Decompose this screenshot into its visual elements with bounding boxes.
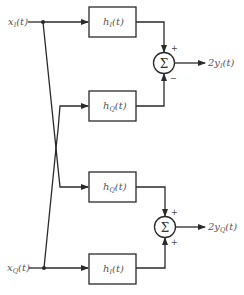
wire-hI-to-sum2 bbox=[136, 238, 165, 268]
sign-plus-2b: + bbox=[171, 238, 178, 247]
sigma-icon-2: Σ bbox=[161, 221, 169, 235]
sign-minus-1: − bbox=[170, 74, 177, 83]
complex-filter-block-diagram: xI(t) xQ(t) hI(t) hQ(t) hQ(t) hI(t) Σ + … bbox=[0, 0, 244, 295]
input-label-xI: xI(t) bbox=[8, 16, 28, 29]
output-label-yQ: 2yQ(t) bbox=[207, 221, 237, 234]
sign-plus-1: + bbox=[171, 44, 178, 53]
output-label-yI: 2yI(t) bbox=[207, 57, 235, 70]
wire-hQ-to-sum1 bbox=[136, 74, 164, 106]
wire-hI-to-sum1 bbox=[136, 22, 164, 52]
sign-plus-2a: + bbox=[171, 208, 178, 217]
wire-hQ-to-sum2 bbox=[136, 187, 165, 216]
input-label-xQ: xQ(t) bbox=[7, 262, 30, 275]
sigma-icon-1: Σ bbox=[160, 57, 168, 71]
wire-xI-cross-to-hQ bbox=[43, 22, 88, 187]
